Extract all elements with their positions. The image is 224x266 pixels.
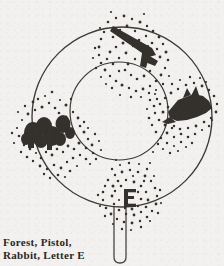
stipple-cluster-pistol	[92, 11, 170, 98]
inner-circle	[70, 62, 168, 160]
magnifier-handle	[114, 207, 126, 263]
stipple-cluster-letter-e	[97, 159, 162, 231]
caption-line-2: Rabbit, Letter E	[3, 249, 85, 262]
stipple-figure	[0, 0, 224, 266]
caption: Forest, Pistol, Rabbit, Letter E	[3, 236, 85, 261]
caption-line-1: Forest, Pistol,	[3, 236, 85, 249]
stipple-cluster-forest	[11, 91, 102, 180]
